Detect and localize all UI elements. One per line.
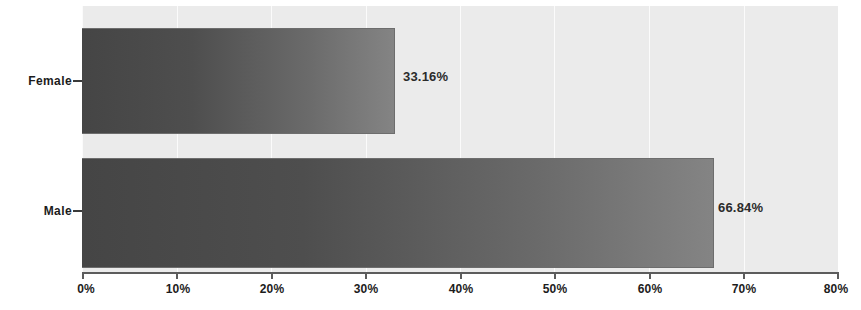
x-axis-label-60: 60% xyxy=(638,282,663,296)
x-axis-label-80: 80% xyxy=(824,282,849,296)
value-label-female: 33.16% xyxy=(403,69,448,84)
x-axis-label-10: 10% xyxy=(166,282,191,296)
x-axis-tick xyxy=(365,274,367,279)
x-axis-label-40: 40% xyxy=(449,282,474,296)
x-axis-label-70: 70% xyxy=(732,282,757,296)
x-axis-tick xyxy=(82,274,84,279)
category-label-male: Male xyxy=(44,204,72,218)
x-axis-tick xyxy=(176,274,178,279)
category-tick-male xyxy=(73,210,82,212)
x-axis-tick xyxy=(649,274,651,279)
x-axis-label-20: 20% xyxy=(260,282,285,296)
category-label-female: Female xyxy=(28,74,72,88)
gridline xyxy=(744,6,745,272)
plot-area xyxy=(82,6,838,272)
x-axis-label-30: 30% xyxy=(354,282,379,296)
category-tick-female xyxy=(73,80,82,82)
bar-male[interactable] xyxy=(82,158,714,268)
bar-chart: 33.16% 66.84% Female Male 0% 10% 20% 30%… xyxy=(0,0,861,310)
x-axis-tick xyxy=(743,274,745,279)
x-axis-tick xyxy=(837,274,839,279)
x-axis-label-0: 0% xyxy=(77,282,95,296)
value-label-male: 66.84% xyxy=(718,200,763,215)
bar-female[interactable] xyxy=(82,28,395,134)
x-axis-tick xyxy=(460,274,462,279)
x-axis-tick xyxy=(271,274,273,279)
x-axis-tick xyxy=(554,274,556,279)
x-axis-label-50: 50% xyxy=(543,282,568,296)
